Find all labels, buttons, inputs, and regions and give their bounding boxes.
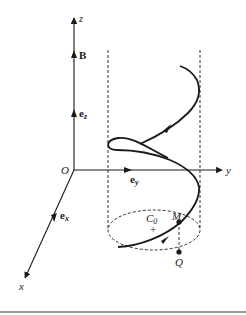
z-axis xyxy=(71,18,77,170)
ex-arrow-icon xyxy=(51,213,57,222)
origin-label: O xyxy=(61,164,69,176)
trajectory-arrow-lower-icon xyxy=(161,236,169,244)
b-field-label: B xyxy=(79,49,87,61)
ez-arrow-icon xyxy=(71,109,77,117)
point-q-dot xyxy=(176,249,181,254)
point-q-label: Q xyxy=(175,256,183,268)
y-axis-label: y xyxy=(225,164,231,176)
guiding-center-marker: + xyxy=(150,223,156,235)
b-field-arrow-icon xyxy=(71,50,77,58)
ey-label: ey xyxy=(130,173,139,187)
x-axis-label: x xyxy=(18,280,24,292)
helix-diagram: z B ez O ey y ex x C0 + M Q xyxy=(0,0,246,315)
z-axis-label: z xyxy=(78,13,83,24)
point-m-label: M xyxy=(171,210,182,222)
ez-label: ez xyxy=(79,107,88,121)
ex-label: ex xyxy=(60,209,69,223)
x-axis xyxy=(25,170,74,278)
